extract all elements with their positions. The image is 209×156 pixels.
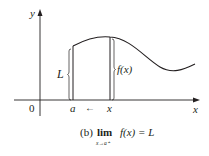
function-curve (73, 37, 195, 71)
x-axis-arrow-icon (193, 98, 200, 103)
caption-prefix: (b) (80, 126, 93, 139)
caption-lim: lim (97, 126, 112, 138)
limit-diagram: y x 0 a ← x L f(x) (b) lim x→a⁺ f(x) = L (0, 0, 209, 156)
caption-expression: f(x) = L (120, 126, 154, 139)
brace-fx (112, 39, 116, 100)
brace-L-label: L (56, 67, 64, 81)
y-axis-arrow-icon (38, 9, 43, 16)
caption-lim-subscript: x→a⁺ (95, 140, 111, 146)
approach-arrow: ← (85, 102, 95, 113)
point-a-label: a (70, 102, 76, 114)
brace-fx-label: f(x) (117, 63, 133, 76)
point-x-label: x (106, 102, 112, 114)
y-axis-label: y (29, 7, 35, 19)
origin-label: 0 (29, 102, 35, 114)
x-axis-label: x (192, 103, 198, 115)
brace-L (68, 49, 72, 100)
